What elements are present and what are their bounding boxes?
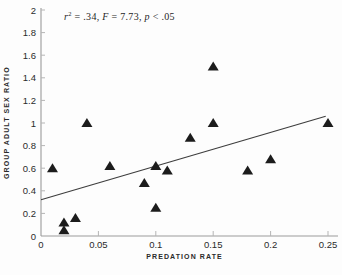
y-tick-label: 0.8 bbox=[23, 140, 36, 151]
y-tick-label: 0.4 bbox=[23, 185, 36, 196]
x-tick-label: 0.25 bbox=[319, 239, 338, 250]
data-point-triangle bbox=[208, 118, 219, 127]
x-tick-label: 0.2 bbox=[264, 239, 277, 250]
y-tick-label: 1.2 bbox=[23, 95, 36, 106]
y-tick-label: 0.2 bbox=[23, 208, 36, 219]
data-point-triangle bbox=[208, 62, 219, 71]
x-tick-label: 0 bbox=[38, 239, 43, 250]
x-tick-label: 0.05 bbox=[89, 239, 108, 250]
data-point-triangle bbox=[185, 133, 196, 142]
y-tick-label: 0.6 bbox=[23, 163, 36, 174]
data-point-triangle bbox=[162, 165, 173, 174]
x-axis-title: PREDATION RATE bbox=[41, 253, 328, 260]
scatter-figure: r2 = .34, F = 7.73, p < .05 GROUP ADULT … bbox=[0, 0, 342, 275]
data-point-triangle bbox=[139, 178, 150, 187]
y-tick-label: 2 bbox=[31, 5, 36, 16]
data-point-triangle bbox=[70, 213, 81, 222]
data-point-triangle bbox=[81, 118, 92, 127]
y-tick-label: 1 bbox=[31, 118, 36, 129]
y-tick-label: 1.8 bbox=[23, 27, 36, 38]
data-point-triangle bbox=[58, 217, 69, 226]
data-point-triangle bbox=[58, 225, 69, 234]
x-tick-label: 0.1 bbox=[149, 239, 162, 250]
data-point-triangle bbox=[242, 165, 253, 174]
data-point-triangle bbox=[47, 163, 58, 172]
data-point-triangle bbox=[265, 154, 276, 163]
data-point-triangle bbox=[323, 118, 334, 127]
data-point-triangle bbox=[104, 161, 115, 170]
y-tick-label: 1.4 bbox=[23, 72, 36, 83]
regression-line bbox=[41, 116, 326, 200]
y-tick-label: 1.6 bbox=[23, 50, 36, 61]
scatter-plot: 00.050.10.150.20.2500.20.40.60.811.21.41… bbox=[0, 0, 342, 275]
data-point-triangle bbox=[150, 203, 161, 212]
x-tick-label: 0.15 bbox=[204, 239, 223, 250]
y-tick-label: 0 bbox=[31, 231, 36, 242]
